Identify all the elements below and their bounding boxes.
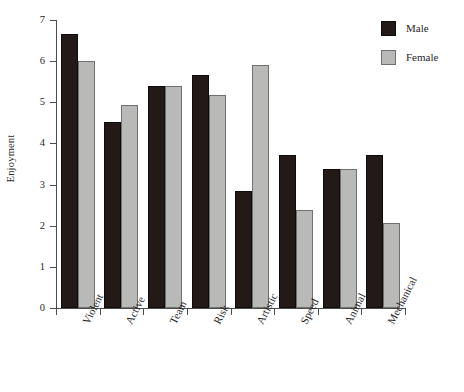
x-axis-tick xyxy=(56,308,57,315)
bar-male-active xyxy=(104,122,121,308)
bar-chart-figure: Enjoyment 01234567 ViolentActiveTeamRisk… xyxy=(0,0,464,392)
bar-group xyxy=(235,20,269,308)
legend-swatch-male-icon xyxy=(381,21,396,36)
y-axis-tick: 4 xyxy=(50,143,56,144)
y-axis-tick-label: 0 xyxy=(40,300,45,316)
y-axis-tick-label: 2 xyxy=(40,218,45,234)
y-axis-tick-label: 4 xyxy=(40,135,45,151)
y-axis-tick-label: 7 xyxy=(40,12,45,28)
legend-item-female: Female xyxy=(381,46,464,68)
y-axis-tick: 5 xyxy=(50,102,56,103)
legend-swatch-female-icon xyxy=(381,50,396,65)
y-axis-title: Enjoyment xyxy=(0,108,22,208)
y-axis-tick-label: 6 xyxy=(40,53,45,69)
bar-male-animal xyxy=(323,169,340,308)
y-axis-line xyxy=(56,20,57,308)
bar-group xyxy=(61,20,95,308)
y-axis-tick: 3 xyxy=(50,185,56,186)
legend-item-male: Male xyxy=(381,17,464,39)
bar-group xyxy=(148,20,182,308)
y-axis-tick-label: 1 xyxy=(40,259,45,275)
y-axis-tick: 6 xyxy=(50,61,56,62)
bar-female-team xyxy=(165,86,182,308)
bar-female-active xyxy=(121,105,138,308)
bar-male-violent xyxy=(61,34,78,308)
bar-male-team xyxy=(148,86,165,308)
bar-female-animal xyxy=(340,169,357,308)
y-axis-tick: 2 xyxy=(50,226,56,227)
bar-female-artistic xyxy=(252,65,269,308)
bar-male-mechanical xyxy=(366,155,383,308)
y-axis-tick-label: 3 xyxy=(40,177,45,193)
x-axis-tick xyxy=(143,308,144,315)
bar-male-speed xyxy=(279,155,296,308)
plot-area: 01234567 ViolentActiveTeamRiskArtisticSp… xyxy=(56,20,405,308)
legend-label-female: Female xyxy=(406,51,438,63)
bar-female-risk xyxy=(209,95,226,308)
y-axis-tick-label: 5 xyxy=(40,94,45,110)
bar-group xyxy=(192,20,226,308)
bar-male-risk xyxy=(192,75,209,308)
legend-label-male: Male xyxy=(406,22,429,34)
bar-group xyxy=(323,20,357,308)
clipped-caption xyxy=(10,381,310,392)
y-axis-tick: 7 xyxy=(50,20,56,21)
y-axis-tick: 1 xyxy=(50,267,56,268)
legend: Male Female xyxy=(381,17,464,75)
bar-male-artistic xyxy=(235,191,252,308)
bar-group xyxy=(104,20,138,308)
bar-group xyxy=(279,20,313,308)
y-axis-title-label: Enjoyment xyxy=(6,134,17,182)
bar-female-violent xyxy=(78,61,95,308)
bar-female-speed xyxy=(296,210,313,308)
